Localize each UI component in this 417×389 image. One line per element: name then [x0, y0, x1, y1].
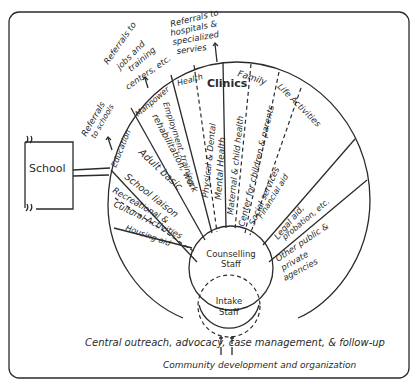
referral-hospitals-note: Referrals to hospitals & specialized ser…	[169, 7, 220, 56]
service-wheel-diagram: School Referrals to schools	[0, 0, 417, 389]
counselling-label-2: Staff	[221, 259, 242, 269]
group-education: Education	[110, 128, 133, 168]
sector-labels-right: Legal aid, probation, etc. Other public …	[272, 197, 331, 283]
footer-line2: Community development and organization	[163, 360, 356, 370]
school-label: School	[29, 162, 66, 175]
group-health: Health	[176, 72, 204, 88]
intake-label-1: Intake	[216, 296, 242, 306]
school-box: School	[25, 136, 73, 211]
group-life-activities: Life Activities	[276, 81, 324, 129]
footer-line1: Central outreach, advocacy, case managem…	[85, 337, 385, 348]
referral-jobs-note: Referrals to jobs and training centers, …	[101, 20, 172, 92]
counselling-label-1: Counselling	[206, 249, 255, 259]
referral-schools-note: Referrals to schools	[79, 99, 116, 140]
intake-label-2: Staff	[219, 307, 240, 317]
sector-labels-left: Adult basic School liaison Recreational …	[111, 101, 200, 249]
